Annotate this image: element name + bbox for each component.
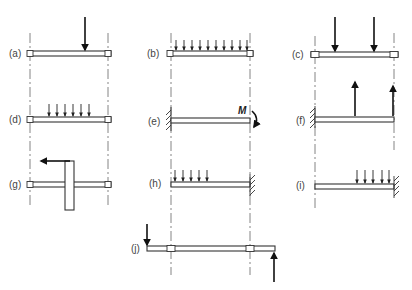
case-g-label: (g) [9, 179, 21, 190]
moment-arrow-icon [252, 111, 257, 127]
case-e-label: (e) [148, 116, 160, 127]
fixed-support-icon [166, 107, 171, 131]
bearing-icon [247, 51, 253, 57]
case-j-label: (j) [131, 243, 140, 254]
distributed-load-icon [175, 170, 207, 181]
case-f-label: (f) [296, 115, 305, 126]
case-b: (b) [147, 40, 253, 59]
centerlines [30, 33, 394, 275]
case-j: (j) [131, 224, 275, 282]
case-b-label: (b) [147, 48, 159, 59]
bearing-icon [27, 182, 33, 188]
distributed-load-icon [49, 104, 89, 116]
case-i: (i) [296, 170, 399, 198]
fixed-support-icon [250, 174, 255, 196]
bearing-icon [105, 51, 111, 57]
case-h-label: (h) [149, 178, 161, 189]
case-g: (g) [9, 161, 111, 210]
bearing-icon [105, 182, 111, 188]
bearing-icon [246, 246, 254, 252]
moment-label: M [238, 105, 247, 116]
bearing-icon [27, 117, 33, 123]
beam-loading-diagram: (a) (b) (c) (d) [0, 0, 412, 290]
bearing-icon [167, 246, 175, 252]
gear-disc-icon [65, 161, 74, 210]
fixed-support-icon [310, 106, 315, 128]
case-h: (h) [149, 170, 255, 196]
case-d-label: (d) [9, 114, 21, 125]
distributed-load-icon [357, 170, 389, 183]
bearing-icon [167, 51, 173, 57]
case-d: (d) [9, 104, 111, 125]
bearing-icon [311, 52, 319, 58]
distributed-load-icon [176, 40, 247, 50]
case-a-label: (a) [9, 48, 21, 59]
case-c-label: (c) [292, 49, 304, 60]
case-c: (c) [292, 17, 398, 60]
bearing-icon [105, 117, 111, 123]
case-e: (e) M [148, 105, 257, 131]
bearing-icon [27, 51, 33, 57]
case-a: (a) [9, 17, 111, 59]
case-f: (f) [296, 82, 394, 128]
bearing-icon [390, 52, 398, 58]
fixed-support-icon [394, 176, 399, 198]
case-i-label: (i) [296, 180, 305, 191]
